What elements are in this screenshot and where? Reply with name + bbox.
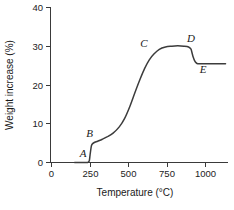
y-axis: 40 30 20 10 0 Weight increase (%)	[4, 2, 51, 168]
y-tick-label-40: 40	[32, 2, 43, 13]
point-label-d: D	[186, 32, 195, 44]
point-label-e: E	[199, 63, 207, 75]
point-label-c: C	[140, 37, 148, 49]
x-tick-label-0: 0	[49, 168, 54, 179]
line-chart: 40 30 20 10 0 Weight increase (%) 0 250 …	[0, 0, 234, 210]
y-axis-title: Weight increase (%)	[4, 40, 15, 130]
point-label-b: B	[86, 127, 93, 139]
y-tick-label-20: 20	[32, 80, 43, 91]
x-tick-label-1000: 1000	[195, 168, 216, 179]
x-axis: 0 250 500 750 1000 Temperature (°C)	[49, 163, 228, 199]
x-axis-title: Temperature (°C)	[97, 187, 174, 198]
x-tick-label-250: 250	[83, 168, 99, 179]
y-tick-label-0: 0	[38, 157, 43, 168]
y-tick-label-30: 30	[32, 41, 43, 52]
x-tick-label-500: 500	[121, 168, 137, 179]
point-label-a: A	[79, 147, 87, 159]
annotation-layer: ABCDE	[79, 32, 207, 158]
y-tick-label-10: 10	[32, 118, 43, 129]
chart-container: 40 30 20 10 0 Weight increase (%) 0 250 …	[0, 0, 234, 210]
x-tick-label-750: 750	[159, 168, 175, 179]
